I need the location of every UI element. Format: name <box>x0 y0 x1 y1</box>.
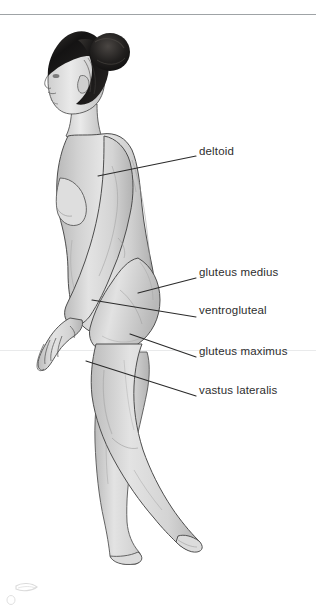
label-vastus-lateralis: vastus lateralis <box>199 384 277 396</box>
label-deltoid: deltoid <box>199 145 234 157</box>
anatomy-figure-illustration <box>0 0 316 613</box>
eye <box>53 74 60 78</box>
head-group <box>45 31 130 141</box>
illustration-page: deltoid gluteus medius ventrogluteal glu… <box>0 0 316 613</box>
near-foot <box>176 535 202 552</box>
label-ventrogluteal: ventrogluteal <box>199 304 267 316</box>
label-gluteus-medius: gluteus medius <box>199 266 278 278</box>
label-gluteus-maximus: gluteus maximus <box>199 345 288 357</box>
corner-watermark <box>6 578 40 606</box>
